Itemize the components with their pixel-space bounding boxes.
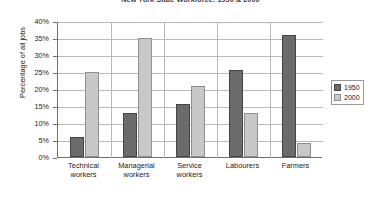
y-axis-tick-label: 15%: [3, 102, 49, 111]
x-axis-category-label: Farmers: [263, 161, 328, 170]
legend-label-2000: 2000: [344, 94, 360, 101]
chart-title: New York State Workforce: 1950 & 2000: [0, 0, 381, 4]
y-axis-tick-label: 35%: [3, 34, 49, 43]
bar-1950: [70, 137, 84, 157]
bar-2000: [85, 72, 99, 157]
category-separator: [164, 22, 165, 158]
legend-item-1950: 1950: [334, 83, 360, 92]
legend-swatch-2000: [334, 94, 341, 101]
y-axis-tick-label: 30%: [3, 51, 49, 60]
bar-1950: [123, 113, 137, 157]
y-axis-tick-mark: [53, 158, 57, 159]
y-axis-tick-label: 0%: [3, 153, 49, 162]
y-axis-tick-label: 20%: [3, 85, 49, 94]
bar-chart: New York State Workforce: 1950 & 2000 Pe…: [0, 0, 381, 197]
x-axis-category-label-line: workers: [157, 170, 222, 179]
category-separator: [217, 22, 218, 158]
bar-2000: [244, 113, 258, 157]
y-axis-tick-label: 40%: [3, 17, 49, 26]
bar-1950: [282, 35, 296, 157]
y-axis-tick-label: 25%: [3, 68, 49, 77]
legend-label-1950: 1950: [344, 84, 360, 91]
bar-1950: [229, 70, 243, 157]
legend: 1950 2000: [331, 80, 364, 105]
category-separator: [111, 22, 112, 158]
bar-2000: [191, 86, 205, 157]
gridline: [58, 22, 323, 23]
bar-2000: [138, 38, 152, 157]
x-axis-category-label-line: Farmers: [263, 161, 328, 170]
bar-2000: [297, 143, 311, 157]
legend-swatch-1950: [334, 84, 341, 91]
plot-area: [57, 22, 322, 158]
y-axis-tick-label: 5%: [3, 136, 49, 145]
bar-1950: [176, 104, 190, 157]
y-axis-tick-label: 10%: [3, 119, 49, 128]
category-separator: [270, 22, 271, 158]
legend-item-2000: 2000: [334, 93, 360, 102]
